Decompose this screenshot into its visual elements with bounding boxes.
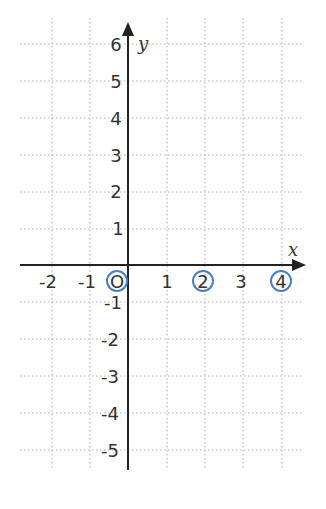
y-tick-label: -5 bbox=[101, 442, 119, 460]
x-tick-label: 1 bbox=[161, 273, 172, 291]
x-tick-label: -2 bbox=[39, 273, 57, 291]
y-tick-label: 1 bbox=[112, 220, 123, 238]
x-tick-label: 3 bbox=[235, 273, 246, 291]
y-tick-label: -1 bbox=[104, 294, 122, 312]
y-tick-label: -3 bbox=[101, 368, 119, 386]
y-axis-label: y bbox=[138, 33, 148, 54]
y-tick-label: 3 bbox=[110, 147, 121, 165]
y-tick-label: 4 bbox=[110, 110, 121, 128]
x-tick-label: -1 bbox=[78, 273, 96, 291]
x-axis-arrow-icon bbox=[292, 259, 306, 271]
y-axis-arrow-icon bbox=[122, 22, 134, 36]
circle-highlight-2 bbox=[192, 270, 214, 292]
grid-and-axes bbox=[0, 0, 326, 509]
y-tick-label: 6 bbox=[110, 36, 121, 54]
y-tick-label: 2 bbox=[110, 183, 121, 201]
grid-lines bbox=[20, 18, 304, 470]
y-tick-label: 5 bbox=[110, 73, 121, 91]
y-tick-label: -2 bbox=[101, 331, 119, 349]
axes bbox=[20, 32, 296, 470]
y-tick-label: -4 bbox=[101, 405, 119, 423]
coordinate-plane: x y -2 -1 O 1 2 3 4 6 5 4 3 2 1 -1 -2 -3… bbox=[0, 0, 326, 509]
x-axis-label: x bbox=[288, 239, 298, 260]
circle-highlight-4 bbox=[270, 270, 292, 292]
circle-highlight-origin bbox=[106, 270, 128, 292]
